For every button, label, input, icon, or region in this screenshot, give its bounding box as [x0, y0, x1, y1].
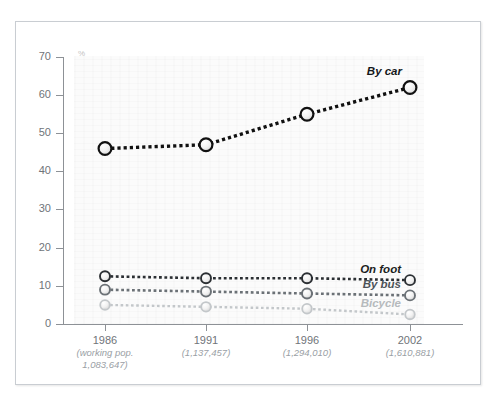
data-point-marker — [404, 81, 417, 94]
data-point-marker — [302, 304, 312, 314]
data-point-marker — [201, 287, 211, 297]
series-line — [105, 88, 410, 149]
series-line — [105, 290, 410, 296]
plot-wrapper: % 70 60 50 40 30 20 10 0 — [16, 22, 480, 384]
chart-figure: % 70 60 50 40 30 20 10 0 — [15, 21, 481, 385]
series-label-bicycle: Bicycle — [361, 297, 401, 309]
series-label-on-foot: On foot — [360, 263, 401, 275]
data-point-marker — [302, 273, 312, 283]
series-label-by-car: By car — [367, 65, 402, 77]
data-point-marker — [405, 275, 415, 285]
data-point-marker — [405, 290, 415, 300]
data-point-marker — [100, 285, 110, 295]
data-point-marker — [100, 300, 110, 310]
data-point-marker — [100, 271, 110, 281]
data-point-marker — [201, 273, 211, 283]
data-point-marker — [405, 310, 415, 320]
data-point-marker — [201, 302, 211, 312]
series-label-by-bus: By bus — [363, 278, 401, 290]
data-point-marker — [301, 108, 314, 121]
series-by-car — [99, 81, 417, 155]
data-point-marker — [200, 138, 213, 151]
data-point-marker — [99, 142, 112, 155]
series-layer — [16, 22, 482, 386]
data-point-marker — [302, 288, 312, 298]
